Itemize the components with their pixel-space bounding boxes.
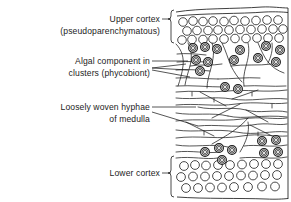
algal-component-label-line1: Algal component in bbox=[75, 56, 150, 66]
medulla-label-line2: of medulla bbox=[109, 114, 150, 124]
algal-cell bbox=[234, 85, 243, 94]
upper-cortex-cells bbox=[178, 16, 288, 45]
label-lower-cortex: Lower cortex bbox=[110, 168, 171, 178]
thallus-boundaries bbox=[176, 7, 288, 199]
lower-cortex-cells bbox=[177, 160, 283, 193]
algal-cell bbox=[201, 148, 210, 157]
algal-cell bbox=[276, 46, 285, 55]
label-algal-component: Algal component in clusters (phycobiont) bbox=[69, 56, 190, 78]
algal-cell bbox=[262, 42, 271, 51]
upper-cortex-bracket bbox=[168, 10, 174, 43]
algal-cell bbox=[204, 58, 213, 67]
algal-cell bbox=[230, 56, 239, 65]
upper-cortex-label-line1: Upper cortex bbox=[110, 14, 161, 24]
algal-cell bbox=[196, 67, 205, 76]
medulla-leader-pair bbox=[152, 107, 198, 126]
upper-cortex-label-line2: (pseudoparenchymatous) bbox=[60, 26, 160, 36]
algal-cell bbox=[189, 44, 198, 53]
label-medulla-hyphae: Loosely woven hyphae of medulla bbox=[61, 102, 198, 126]
algal-cell bbox=[192, 56, 201, 65]
lower-cortex-bracket bbox=[168, 156, 174, 197]
algal-cell bbox=[218, 156, 227, 165]
algal-cell bbox=[215, 144, 224, 153]
label-upper-cortex: Upper cortex (pseudoparenchymatous) bbox=[60, 14, 171, 36]
algal-cell bbox=[258, 137, 267, 146]
algal-cell bbox=[272, 136, 281, 145]
algal-cell bbox=[228, 146, 237, 155]
algal-component-leader-fan bbox=[152, 61, 190, 77]
diagram-canvas: Upper cortex (pseudoparenchymatous) Alga… bbox=[0, 0, 291, 202]
algal-cell bbox=[272, 58, 281, 67]
algal-cell bbox=[260, 149, 269, 158]
lichen-thallus-figure: Upper cortex (pseudoparenchymatous) Alga… bbox=[0, 0, 291, 202]
algal-cell bbox=[201, 43, 210, 52]
lower-cortex-label-line1: Lower cortex bbox=[110, 168, 161, 178]
medulla-label-line1: Loosely woven hyphae bbox=[61, 102, 151, 112]
algal-cell bbox=[274, 148, 283, 157]
algal-cell bbox=[254, 54, 263, 63]
algal-cell bbox=[213, 45, 222, 54]
algal-cell bbox=[221, 83, 230, 92]
algal-component-label-line2: clusters (phycobiont) bbox=[69, 68, 150, 78]
medulla-hyphae bbox=[176, 90, 287, 153]
algal-cell bbox=[236, 46, 245, 55]
